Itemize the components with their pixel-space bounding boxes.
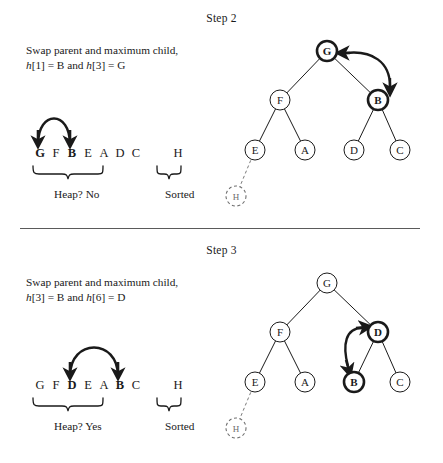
node-label: A <box>301 144 309 156</box>
step-3-tree: G F D E A B C H <box>222 260 443 460</box>
sorted-brace <box>157 166 181 179</box>
node-label: D <box>374 326 382 338</box>
node-label: E <box>252 376 259 388</box>
step-2-sorted-label: Sorted <box>165 188 195 200</box>
sorted-brace <box>157 398 181 411</box>
step-2-caption-line1: Swap parent and maximum child, <box>26 43 178 58</box>
heap-letter: D <box>64 378 80 393</box>
node-label: H <box>233 192 240 202</box>
node-label: G <box>323 45 332 57</box>
node-label: C <box>396 144 403 156</box>
heap-letter: A <box>96 146 112 161</box>
h-index-1: [3] = B and <box>32 291 87 303</box>
node-label: C <box>396 376 403 388</box>
node-label: D <box>350 144 358 156</box>
heap-letter: C <box>128 378 144 393</box>
step-2-sorted-letters: H <box>170 146 186 161</box>
tree-node-leaf-a: A <box>295 140 315 160</box>
node-label: B <box>374 94 382 106</box>
node-label: E <box>252 144 259 156</box>
tree-node-leaf-d: D <box>344 140 364 160</box>
sorted-letter: H <box>170 378 186 393</box>
heap-letter: C <box>128 146 144 161</box>
heap-letter: B <box>64 146 80 161</box>
step-2-heap-label: Heap? No <box>54 188 99 200</box>
tree-swap-arrow-head-up <box>356 327 366 328</box>
tree-node-leaf-e: E <box>245 372 265 392</box>
heap-letter: G <box>32 146 48 161</box>
swap-arc <box>70 348 118 377</box>
step-3-panel: Step 3 Swap parent and maximum child, h[… <box>0 232 443 463</box>
node-label: A <box>301 376 309 388</box>
step-2-array-area: GFBEADC H Heap? No Sorted <box>18 104 218 204</box>
step-3-caption-line1: Swap parent and maximum child, <box>26 275 178 290</box>
heap-letter: E <box>80 146 96 161</box>
tree-node-leaf-h-removed: H <box>226 418 246 438</box>
tree-swap-arc <box>346 53 390 86</box>
tree-node-right-child: D <box>368 322 388 342</box>
tree-node-leaf-c: C <box>390 372 410 392</box>
swap-arc <box>38 119 70 145</box>
tree-node-right-child: B <box>368 90 388 110</box>
sorted-letter: H <box>170 146 186 161</box>
step-3-array-area: GFDEABC H Heap? Yes Sorted <box>18 336 218 436</box>
tree-node-leaf-c: C <box>390 140 410 160</box>
h-index-2: [3] = G <box>92 59 125 71</box>
tree-node-root: G <box>317 41 337 61</box>
tree-node-left-child: F <box>270 322 290 342</box>
tree-swap-arc <box>345 328 362 366</box>
tree-node-left-child: F <box>270 90 290 110</box>
node-label: F <box>277 94 283 106</box>
h-index-1: [1] = B and <box>32 59 87 71</box>
step-2-tree: G F B E A D C H <box>222 28 443 228</box>
h-index-2: [6] = D <box>92 291 125 303</box>
node-label: H <box>233 424 240 434</box>
heap-letter: D <box>112 146 128 161</box>
tree-swap-arrow-head-down <box>346 360 349 371</box>
heap-letter: A <box>96 378 112 393</box>
heap-brace <box>33 398 103 411</box>
step-2-title: Step 2 <box>0 12 443 24</box>
heap-letter: B <box>112 378 128 393</box>
step-2-panel: Step 2 Swap parent and maximum child, h[… <box>0 0 443 231</box>
step-2-caption: Swap parent and maximum child, h[1] = B … <box>26 43 178 72</box>
step-2-caption-line2: h[1] = B and h[3] = G <box>26 58 178 73</box>
heap-letter: E <box>80 378 96 393</box>
step-3-sorted-letters: H <box>170 378 186 393</box>
step-3-caption: Swap parent and maximum child, h[3] = B … <box>26 275 178 304</box>
node-label: B <box>350 376 358 388</box>
node-label: G <box>323 277 331 289</box>
step-3-heap-letters: GFDEABC <box>32 378 144 393</box>
step-2-heap-letters: GFBEADC <box>32 146 144 161</box>
tree-node-root: G <box>317 273 337 293</box>
tree-node-leaf-a: A <box>295 372 315 392</box>
step-3-heap-label: Heap? Yes <box>54 420 102 432</box>
step-3-caption-line2: h[3] = B and h[6] = D <box>26 290 178 305</box>
heap-letter: F <box>48 146 64 161</box>
heap-letter: F <box>48 378 64 393</box>
step-3-sorted-label: Sorted <box>165 420 195 432</box>
tree-node-leaf-b: B <box>344 372 364 392</box>
heap-letter: G <box>32 378 48 393</box>
tree-node-leaf-e: E <box>245 140 265 160</box>
step-3-title: Step 3 <box>0 244 443 256</box>
tree-node-leaf-h-removed: H <box>226 186 246 206</box>
node-label: F <box>277 326 283 338</box>
heap-brace <box>33 166 103 179</box>
panel-divider <box>20 228 420 229</box>
